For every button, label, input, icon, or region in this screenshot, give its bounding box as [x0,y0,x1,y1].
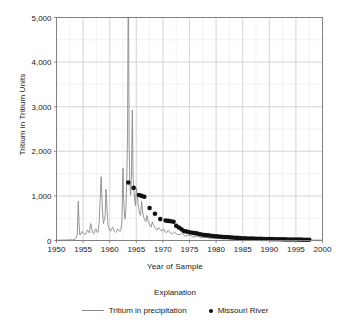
x-tick-labels: 1950195519601965197019751980198519901995… [48,245,332,254]
legend-item-missouri-river: Missouri River [209,306,269,315]
x-axis-title: Year of Sample [0,262,350,271]
svg-text:1960: 1960 [101,245,119,254]
axis-ticks [54,18,323,244]
svg-text:1970: 1970 [154,245,172,254]
svg-text:0: 0 [47,237,52,246]
svg-text:1965: 1965 [127,245,145,254]
svg-text:1980: 1980 [207,245,225,254]
tritium-plot: 1950195519601965197019751980198519901995… [0,0,350,329]
legend-title: Explanation [0,288,350,297]
svg-text:3,000: 3,000 [31,103,52,112]
y-axis-title: Tritium in Tritium Units [18,45,27,185]
svg-text:1990: 1990 [260,245,278,254]
svg-text:2,000: 2,000 [31,147,52,156]
svg-text:2000: 2000 [314,245,332,254]
legend-item-precipitation: Tritium in precipitation [82,306,187,315]
svg-text:1995: 1995 [287,245,305,254]
svg-text:1950: 1950 [48,245,66,254]
chart-legend: Tritium in precipitation Missouri River [0,306,350,315]
chart-figure: 1950195519601965197019751980198519901995… [0,0,350,329]
svg-text:1955: 1955 [74,245,92,254]
svg-text:1,000: 1,000 [31,192,52,201]
legend-dot-swatch-icon [209,309,213,313]
legend-label-precipitation: Tritium in precipitation [109,306,187,315]
svg-text:4,000: 4,000 [31,58,52,67]
series-missouri-river [126,180,311,242]
legend-line-swatch-icon [82,310,104,311]
legend-label-missouri-river: Missouri River [218,306,269,315]
svg-text:5,000: 5,000 [31,14,52,23]
svg-text:1975: 1975 [181,245,199,254]
y-tick-labels: 01,0002,0003,0004,0005,000 [31,14,52,246]
svg-text:1985: 1985 [234,245,252,254]
